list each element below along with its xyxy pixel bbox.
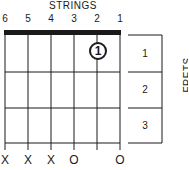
frets-label: FRETS: [182, 63, 189, 93]
string-marker-4: X: [46, 153, 56, 167]
string-marker-3: O: [69, 153, 79, 167]
string-marker-6: X: [0, 153, 10, 167]
fret-number-1: 1: [128, 48, 162, 59]
nut: [4, 30, 121, 35]
fret-number-3: 3: [128, 120, 162, 131]
fret-number-2: 2: [128, 84, 162, 95]
string-marker-1: O: [115, 153, 125, 167]
finger-position-marker: 1: [89, 42, 107, 60]
string-marker-5: X: [23, 153, 33, 167]
